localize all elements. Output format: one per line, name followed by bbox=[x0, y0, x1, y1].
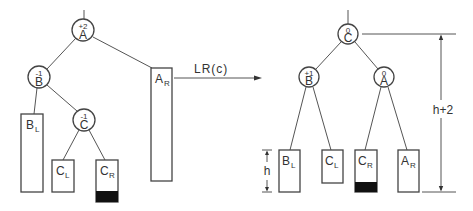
subtree-AR-after: A R bbox=[398, 150, 419, 192]
edge-C-CL bbox=[63, 130, 79, 160]
subtree-subscript: L bbox=[65, 171, 70, 180]
avl-lr-rotation-diagram: +2 A -1 B -1 C B L C L bbox=[0, 0, 473, 211]
subtree-subscript: L bbox=[334, 161, 339, 170]
node-label: A bbox=[380, 74, 388, 88]
subtree-CR-after: C R bbox=[355, 150, 377, 192]
subtree-label: C bbox=[325, 154, 334, 168]
edge-C-B bbox=[316, 42, 341, 69]
subtree-subscript: R bbox=[109, 171, 115, 180]
edge-A-CR bbox=[365, 87, 381, 150]
edge-B-C bbox=[47, 85, 77, 111]
edge-B-BL bbox=[34, 88, 37, 114]
node-C-after: 0 C bbox=[338, 24, 358, 45]
subtree-label: B bbox=[26, 118, 34, 132]
inserted-level-shading bbox=[96, 191, 118, 202]
arrow-up-icon bbox=[265, 151, 269, 156]
before-tree: +2 A -1 B -1 C B L C L bbox=[21, 10, 172, 202]
dimension-label-h: h bbox=[264, 164, 271, 178]
edge-A-AR bbox=[388, 87, 407, 150]
node-A-before: +2 A bbox=[72, 19, 94, 42]
arrow-down-icon bbox=[439, 186, 443, 192]
subtree-subscript: L bbox=[35, 125, 40, 134]
dimension-h: h bbox=[262, 150, 272, 192]
node-label: A bbox=[79, 28, 87, 42]
subtree-subscript: R bbox=[367, 161, 373, 170]
node-label: C bbox=[80, 118, 89, 132]
edge-B-BL bbox=[290, 87, 306, 150]
node-B-after: +1 B bbox=[299, 67, 319, 88]
arrow-up-icon bbox=[439, 35, 443, 41]
node-A-after: 0 A bbox=[374, 67, 394, 88]
subtree-label: A bbox=[401, 154, 409, 168]
subtree-CL-before: C L bbox=[52, 160, 74, 192]
subtree-BL-after: B L bbox=[279, 150, 300, 192]
edge-A-B bbox=[47, 38, 76, 69]
subtree-label: C bbox=[56, 164, 65, 178]
subtree-subscript: L bbox=[291, 161, 296, 170]
rotation-label: LR(c) bbox=[194, 62, 228, 76]
subtree-label: B bbox=[282, 154, 290, 168]
subtree-AR-before: A R bbox=[151, 68, 172, 181]
dimension-label-h-plus-2: h+2 bbox=[433, 103, 454, 117]
subtree-CL-after: C L bbox=[322, 150, 343, 183]
edge-A-AR bbox=[93, 37, 152, 68]
node-label: B bbox=[35, 75, 43, 89]
node-label: B bbox=[305, 74, 313, 88]
node-label: C bbox=[344, 31, 353, 45]
inserted-level-shading bbox=[355, 182, 377, 192]
arrow-down-icon bbox=[265, 187, 269, 192]
node-C-before: -1 C bbox=[73, 109, 95, 132]
subtree-CR-before: C R bbox=[96, 160, 118, 202]
node-B-before: -1 B bbox=[28, 66, 50, 89]
after-tree: 0 C +1 B 0 A B L C L C bbox=[262, 10, 456, 192]
arrow-head-icon bbox=[254, 76, 262, 81]
edge-C-CR bbox=[89, 130, 105, 160]
subtree-subscript: R bbox=[410, 161, 416, 170]
edge-B-CL bbox=[313, 87, 331, 150]
subtree-subscript: R bbox=[164, 79, 170, 88]
subtree-label: C bbox=[100, 164, 109, 178]
subtree-BL-before: B L bbox=[21, 114, 43, 192]
transformation-arrow: LR(c) bbox=[174, 62, 262, 81]
edge-C-A bbox=[355, 42, 378, 69]
subtree-label: A bbox=[155, 72, 163, 86]
subtree-label: C bbox=[358, 154, 367, 168]
